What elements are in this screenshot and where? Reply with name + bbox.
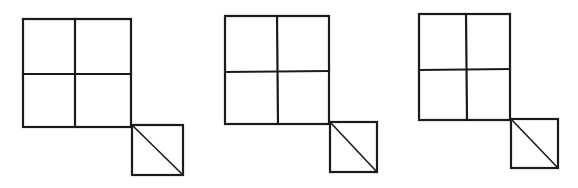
grid-vertical-divider xyxy=(277,16,278,124)
figure-3 xyxy=(419,14,558,168)
grid-2x2-outline xyxy=(419,14,510,120)
small-square-diagonal xyxy=(330,122,377,172)
grid-horizontal-divider xyxy=(419,69,510,70)
diagram-canvas xyxy=(0,0,578,188)
grid-vertical-divider xyxy=(466,14,467,120)
small-square-diagonal xyxy=(132,125,183,175)
small-square-diagonal xyxy=(511,119,558,168)
figure-2 xyxy=(225,16,377,172)
grid-horizontal-divider xyxy=(225,71,329,72)
figure-1 xyxy=(23,19,183,175)
